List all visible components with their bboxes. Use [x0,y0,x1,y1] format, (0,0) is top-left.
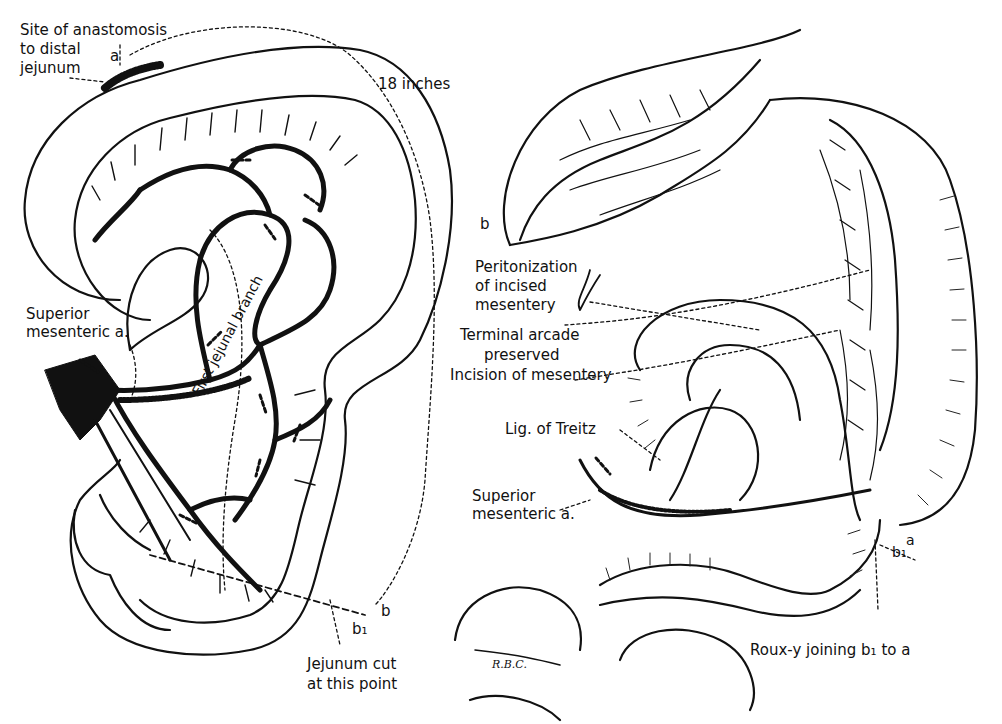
right-mesentery-network [560,90,878,480]
label-point-b-right: b [480,215,490,233]
label-superior-mesenteric-right: Superior mesenteric a. [472,487,575,523]
left-sma-trunk [45,355,120,440]
label-roux-y: Roux-y joining b₁ to a [750,641,910,659]
artist-signature: R.B.C. [492,656,527,674]
label-terminal-arcade: Terminal arcade preserved [460,325,579,365]
label-incision-of-mesentery: Incision of mesentery [450,366,612,384]
label-point-b1-right: b₁ [892,543,907,561]
label-jejunum-cut: Jejunum cut at this point [307,654,397,694]
surgical-illustration: Site of anastomosis to distal jejunum a … [0,0,1002,724]
label-superior-mesenteric-left: Superior mesenteric a. [26,305,129,341]
label-lig-of-treitz: Lig. of Treitz [505,420,596,438]
right-guide-lines [560,270,915,610]
label-point-a-left: a [110,47,119,65]
label-site-of-anastomosis: Site of anastomosis to distal jejunum [20,21,167,78]
label-peritonization: Peritonization of incised mesentery [475,258,578,315]
label-point-a-right: a [906,531,915,549]
left-jejunal-loop [25,47,452,655]
label-point-b-left: b [381,602,391,620]
label-length-18-inches: 18 inches [378,75,450,93]
right-sma [580,460,870,516]
right-suture [579,270,600,310]
label-point-b1-left: b₁ [352,620,368,638]
